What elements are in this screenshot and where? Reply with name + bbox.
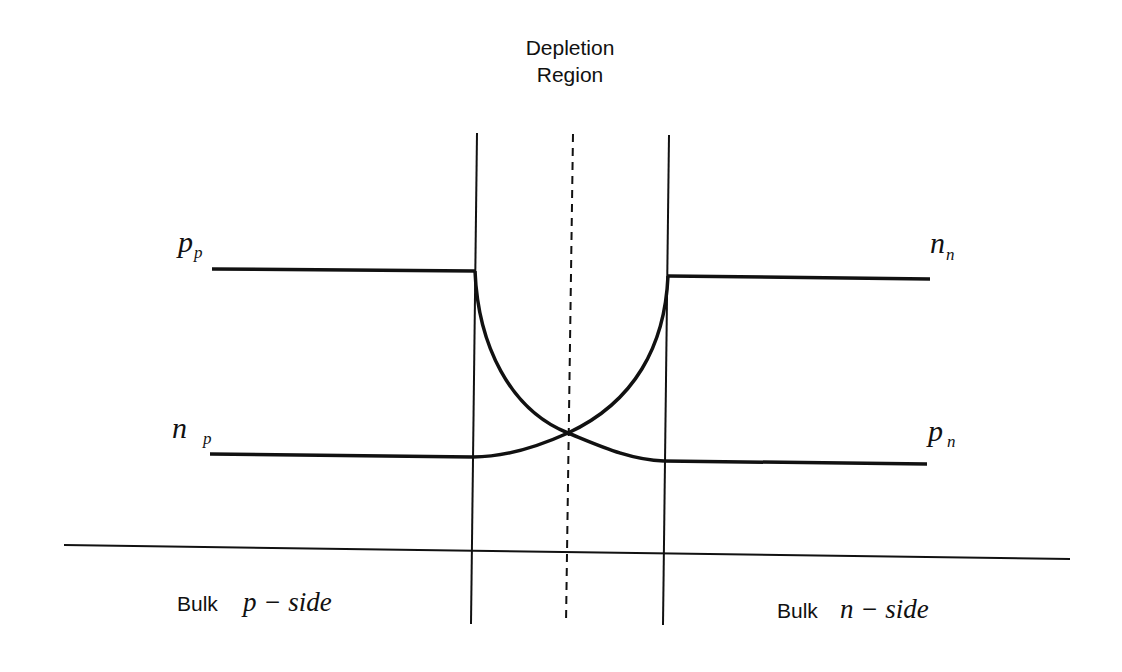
junction-center-line [566, 134, 573, 624]
pn-level-line [664, 461, 927, 464]
pp-level-line [212, 269, 475, 271]
svg-text:p: p [176, 225, 193, 258]
svg-text:n: n [946, 245, 955, 264]
svg-text:Bulk: Bulk [177, 592, 218, 615]
nn-level-line [668, 276, 930, 279]
title-region: Region [537, 63, 604, 86]
label-bulk-n-side: Bulk n − side [777, 594, 929, 624]
svg-text:p: p [202, 429, 212, 448]
svg-text:p − side: p − side [241, 587, 332, 617]
svg-text:Bulk: Bulk [777, 599, 818, 622]
svg-text:p: p [193, 243, 203, 262]
pn-junction-diagram: Depletion Region p p n p n n p n Bulk p … [0, 0, 1122, 672]
label-nn: n n [930, 226, 955, 264]
svg-text:p: p [926, 414, 943, 447]
svg-text:n: n [930, 226, 945, 259]
label-bulk-p-side: Bulk p − side [177, 587, 332, 617]
label-np: n p [172, 411, 212, 448]
svg-text:n − side: n − side [840, 594, 929, 624]
label-pn: p n [926, 414, 956, 451]
label-pp: p p [176, 225, 203, 262]
svg-text:n: n [947, 432, 956, 451]
svg-text:n: n [172, 411, 187, 444]
right-depletion-boundary [663, 135, 669, 625]
np-level-line [210, 454, 473, 457]
title-depletion: Depletion [526, 36, 615, 59]
